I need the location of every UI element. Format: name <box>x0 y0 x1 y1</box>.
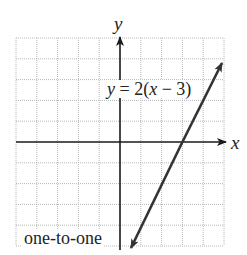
x-axis-label: x <box>231 133 239 152</box>
caption-label: one-to-one <box>22 229 104 247</box>
coordinate-plane <box>0 0 247 255</box>
equation-rest: − 3) <box>157 79 191 99</box>
equation-var: x <box>149 79 157 99</box>
equation-lhs: y <box>107 79 115 99</box>
equation-eq: = 2( <box>115 79 149 99</box>
equation-label: y = 2(x − 3) <box>106 80 192 98</box>
function-line <box>182 63 222 142</box>
y-axis-label: y <box>114 14 122 33</box>
graph-figure: y = 2(x − 3) y x one-to-one <box>0 0 247 255</box>
function-line <box>131 142 182 248</box>
